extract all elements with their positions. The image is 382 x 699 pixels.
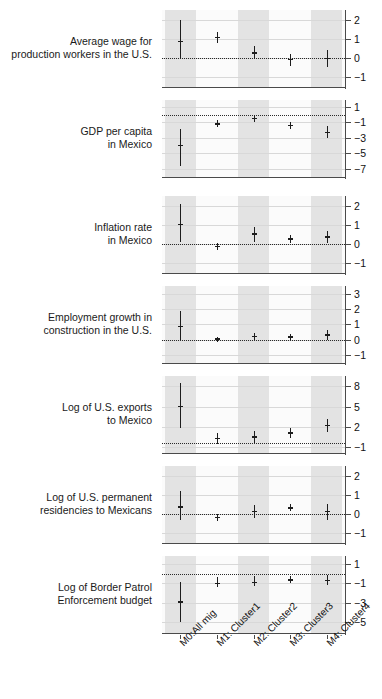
y-axis-tick <box>346 386 351 387</box>
panel-1: GDP per capita in Mexico1−1−3−5−7 <box>0 100 382 178</box>
gridline <box>162 427 345 428</box>
point-estimate-marker <box>178 326 183 328</box>
gridline <box>162 407 345 408</box>
y-axis-tick <box>346 407 351 408</box>
y-axis-tick <box>346 20 351 21</box>
point-estimate-marker <box>288 579 293 581</box>
reference-line <box>162 443 345 444</box>
panel-5: Log of U.S. permanent residencies to Mex… <box>0 466 382 544</box>
gridline <box>162 169 345 170</box>
y-axis-tick <box>346 244 351 245</box>
panel-row-label: Log of U.S. permanent residencies to Mex… <box>0 491 152 517</box>
point-estimate-marker <box>178 41 183 43</box>
point-estimate-marker <box>215 123 220 125</box>
confidence-interval-bar <box>180 204 181 242</box>
y-axis-tick-label: 1 <box>354 559 360 570</box>
panel-0: Average wage for production workers in t… <box>0 10 382 88</box>
gridline <box>162 153 345 154</box>
gridline <box>162 39 345 40</box>
point-estimate-marker <box>325 236 330 238</box>
y-axis-tick <box>346 427 351 428</box>
point-estimate-marker <box>252 511 257 513</box>
y-axis-tick-label: 1 <box>354 220 360 231</box>
gridline <box>162 20 345 21</box>
point-estimate-marker <box>178 224 183 226</box>
panel-row-label: Log of U.S. exports to Mexico <box>0 401 152 427</box>
category-band <box>311 10 342 87</box>
confidence-interval-bar <box>180 129 181 166</box>
y-axis-tick <box>346 355 351 356</box>
y-axis-tick <box>346 476 351 477</box>
panel-3: Employment growth in construction in the… <box>0 286 382 364</box>
point-estimate-marker <box>288 507 293 509</box>
confidence-interval-bar <box>180 20 181 57</box>
point-estimate-marker <box>288 336 293 338</box>
point-estimate-marker <box>215 246 220 248</box>
y-axis-tick-label: 1 <box>354 102 360 113</box>
gridline <box>162 294 345 295</box>
point-estimate-marker <box>215 517 220 519</box>
y-axis-tick <box>346 533 351 534</box>
category-band <box>311 376 342 453</box>
gridline <box>162 386 345 387</box>
gridline <box>162 138 345 139</box>
y-axis-spine <box>345 286 346 365</box>
panel-row-label: Inflation rate in Mexico <box>0 221 152 247</box>
y-axis-tick <box>346 309 351 310</box>
point-estimate-marker <box>252 52 257 54</box>
plot-area <box>162 376 345 454</box>
y-axis-tick-label: −5 <box>354 148 366 159</box>
y-axis-tick <box>346 206 351 207</box>
y-axis-tick <box>346 153 351 154</box>
reference-line <box>162 244 345 245</box>
y-axis-tick-label: 3 <box>354 289 360 300</box>
y-axis-tick-label: −1 <box>354 528 366 539</box>
point-estimate-marker <box>215 583 220 585</box>
point-estimate-marker <box>288 238 293 240</box>
y-axis-tick-label: −1 <box>354 258 366 269</box>
gridline <box>162 564 345 565</box>
y-axis-tick-label: 1 <box>354 34 360 45</box>
plot-area <box>162 10 345 88</box>
y-axis-tick <box>346 225 351 226</box>
point-estimate-marker <box>325 425 330 427</box>
point-estimate-marker <box>252 233 257 235</box>
y-axis-tick <box>346 514 351 515</box>
panel-row-label: Log of Border Patrol Enforcement budget <box>0 581 152 607</box>
panel-2: Inflation rate in Mexico210−1 <box>0 196 382 274</box>
y-axis-tick-label: −3 <box>354 133 366 144</box>
point-estimate-marker <box>178 406 183 408</box>
y-axis-spine <box>345 376 346 455</box>
y-axis-tick <box>346 564 351 565</box>
point-estimate-marker <box>252 436 257 438</box>
y-axis-tick <box>346 263 351 264</box>
y-axis-tick-label: 1 <box>354 490 360 501</box>
y-axis-spine <box>345 100 346 179</box>
y-axis-tick-label: 0 <box>354 239 360 250</box>
point-estimate-marker <box>252 118 257 120</box>
point-estimate-marker <box>325 511 330 513</box>
panel-row-label: GDP per capita in Mexico <box>0 125 152 151</box>
y-axis-tick-label: 2 <box>354 304 360 315</box>
point-estimate-marker <box>252 336 257 338</box>
y-axis-tick <box>346 294 351 295</box>
gridline <box>162 122 345 123</box>
point-estimate-marker <box>178 145 183 147</box>
y-axis-tick-label: −7 <box>354 164 366 175</box>
y-axis-tick-label: 8 <box>354 381 360 392</box>
y-axis-tick <box>346 583 351 584</box>
gridline <box>162 355 345 356</box>
y-axis-tick <box>346 603 351 604</box>
gridline <box>162 225 345 226</box>
y-axis-tick-label: −1 <box>354 578 366 589</box>
plot-area <box>162 196 345 274</box>
point-estimate-marker <box>325 334 330 336</box>
plot-area <box>162 100 345 178</box>
gridline <box>162 77 345 78</box>
y-axis-tick-label: 0 <box>354 509 360 520</box>
gridline <box>162 476 345 477</box>
reference-line <box>162 340 345 341</box>
gridline <box>162 107 345 108</box>
point-estimate-marker <box>325 132 330 134</box>
y-axis-tick <box>346 324 351 325</box>
